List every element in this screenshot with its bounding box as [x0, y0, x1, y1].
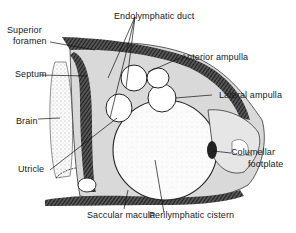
figure-caption-fragment	[0, 225, 296, 233]
columellar-footplate-shape	[207, 141, 217, 159]
label-septum: Septum	[15, 69, 47, 79]
saccule-small	[78, 178, 96, 192]
brain-region	[50, 62, 73, 178]
label-endolymphatic-duct: Endolymphatic duct	[114, 11, 194, 21]
label-brain: Brain	[16, 116, 38, 126]
label-superior-foramen-line2: foramen	[13, 36, 47, 46]
label-perilymphatic-cistern: Perilymphatic cistern	[149, 210, 234, 220]
label-lateral-ampulla: Lateral ampulla	[219, 90, 282, 100]
diagram-drawing	[0, 0, 296, 233]
label-superior-foramen-line1: Superior	[7, 25, 42, 35]
label-utricle: Utricle	[18, 164, 44, 174]
label-columellar-footplate-line2: footplate	[248, 159, 283, 169]
anterior-ampulla-chamber	[121, 65, 147, 91]
label-columellar-footplate-line1: Columellar	[231, 147, 275, 157]
inner-ear-section-figure: Endolymphatic duct Superior foramen Ante…	[0, 0, 296, 233]
label-anterior-ampulla: Anterior ampulla	[181, 52, 248, 62]
label-saccular-macula: Saccular macula	[87, 210, 155, 220]
lateral-ampulla-chamber	[148, 84, 176, 112]
